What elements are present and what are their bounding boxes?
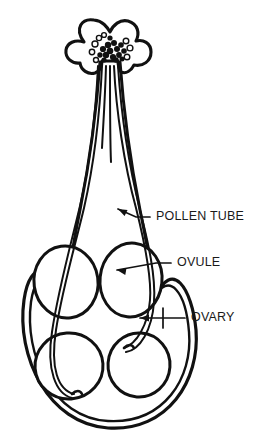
pollen-grain-filled-9 — [97, 52, 102, 57]
pollen-grain-filled-1 — [111, 40, 117, 46]
pollen-grain-hollow-6 — [94, 58, 99, 63]
pollen-grain-filled-12 — [113, 57, 118, 62]
pollen-grain-hollow-5 — [124, 54, 130, 60]
pollen-grain-hollow-1 — [96, 35, 101, 40]
tube-2-short — [110, 66, 111, 162]
label-text-ovule: OVULE — [177, 255, 220, 269]
pollen-grain-hollow-7 — [102, 33, 107, 38]
pollen-grain-filled-13 — [101, 57, 106, 62]
pollen-grain-filled-10 — [121, 48, 127, 54]
label-text-pollen-tube: POLLEN TUBE — [156, 209, 244, 223]
pollen-grain-filled-6 — [103, 52, 109, 58]
pollen-grain-filled-5 — [118, 42, 124, 48]
pistil-diagram: POLLEN TUBEOVULEOVARY — [0, 0, 264, 440]
pollen-grain-filled-0 — [105, 42, 111, 48]
arrowhead-pollen-tube — [118, 209, 128, 216]
pollen-grain-filled-11 — [107, 35, 112, 40]
pollen-grain-hollow-4 — [89, 49, 94, 54]
pollen-grain-hollow-0 — [92, 41, 98, 47]
pollen-grain-filled-2 — [100, 46, 106, 52]
label-text-ovary: OVARY — [191, 310, 235, 324]
tube-1-short — [102, 66, 106, 148]
pollen-grain-hollow-2 — [123, 38, 129, 44]
pollen-grain-hollow-3 — [127, 45, 133, 51]
botanical-diagram-figure: POLLEN TUBEOVULEOVARY — [0, 0, 264, 440]
